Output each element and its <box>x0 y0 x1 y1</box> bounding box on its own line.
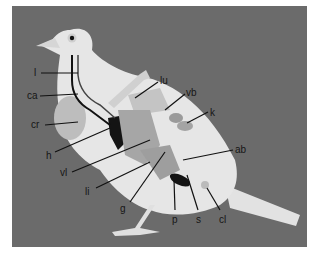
label-li: li <box>85 187 89 197</box>
label-s: s <box>196 215 201 225</box>
kidney <box>169 113 183 123</box>
label-h: h <box>46 151 52 161</box>
label-lu: lu <box>160 76 168 86</box>
label-ab: ab <box>235 145 246 155</box>
label-l: l <box>34 68 36 78</box>
label-vl: vl <box>60 168 67 178</box>
label-cr: cr <box>31 120 39 130</box>
label-vb: vb <box>186 88 197 98</box>
label-p: p <box>172 215 178 225</box>
label-k: k <box>210 108 215 118</box>
label-g: g <box>120 204 126 214</box>
label-cl: cl <box>219 215 226 225</box>
bird-anatomy-illustration <box>0 0 314 254</box>
label-ca: ca <box>27 91 38 101</box>
tail <box>225 185 300 226</box>
cloaca <box>201 181 209 189</box>
